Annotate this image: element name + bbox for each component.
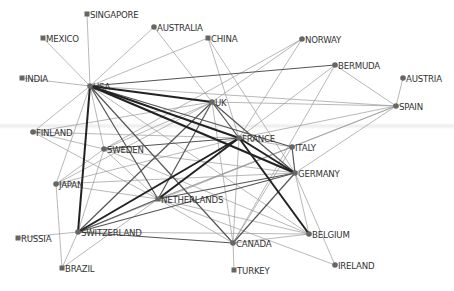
node-uk[interactable]: UK (209, 98, 227, 108)
node-netherlands[interactable]: NETHERLANDS (156, 195, 224, 205)
square-node-icon (85, 12, 90, 17)
square-node-icon (156, 197, 161, 202)
edge-france-switzerland (78, 138, 239, 232)
edge-italy-canada (233, 147, 292, 243)
edge-usa-australia (90, 27, 154, 86)
node-label: CHINA (211, 34, 238, 44)
circle-node-icon (236, 135, 242, 141)
edge-germany-ireland (295, 173, 335, 265)
node-japan[interactable]: JAPAN (53, 180, 83, 190)
node-label: IRELAND (338, 261, 375, 271)
node-finland[interactable]: FINLAND (30, 128, 73, 138)
square-node-icon (206, 36, 211, 41)
node-italy[interactable]: ITALY (289, 143, 317, 153)
node-label: SINGAPORE (90, 10, 139, 20)
edge-norway-france (239, 39, 302, 138)
circle-node-icon (299, 36, 305, 42)
node-mexico[interactable]: MEXICO (41, 34, 80, 44)
circle-node-icon (292, 170, 298, 176)
node-australia[interactable]: AUSTRALIA (151, 23, 203, 33)
node-norway[interactable]: NORWAY (299, 35, 342, 45)
circle-node-icon (230, 240, 236, 246)
edge-usa-france (90, 86, 239, 138)
node-label: AUSTRIA (406, 74, 442, 84)
edge-usa-mexico (43, 38, 90, 86)
node-canada[interactable]: CANADA (230, 239, 271, 249)
edge-usa-finland (33, 86, 90, 132)
node-label: MEXICO (46, 34, 79, 44)
node-label: BERMUDA (338, 61, 380, 71)
node-label: USA (93, 82, 111, 92)
edge-netherlands-canada (158, 199, 233, 243)
node-label: FINLAND (36, 128, 73, 138)
square-node-icon (20, 76, 25, 81)
square-node-icon (232, 268, 237, 273)
node-label: JAPAN (58, 180, 83, 190)
edge-netherlands-sweden (104, 149, 158, 199)
edge-usa-switzerland (78, 86, 90, 232)
node-brazil[interactable]: BRAZIL (60, 264, 95, 274)
node-label: BRAZIL (65, 264, 95, 274)
node-label: NORWAY (305, 35, 342, 45)
node-label: SWITZERLAND (81, 228, 142, 238)
node-label: FRANCE (242, 134, 275, 144)
square-node-icon (16, 236, 21, 241)
circle-node-icon (30, 129, 36, 135)
node-china[interactable]: CHINA (206, 34, 238, 44)
edge-usa-china (90, 38, 208, 86)
square-node-icon (60, 266, 65, 271)
circle-node-icon (393, 103, 399, 109)
edge-bermuda-france (239, 65, 335, 138)
node-india[interactable]: INDIA (20, 74, 49, 84)
edge-france-netherlands (158, 138, 239, 199)
circle-node-icon (332, 62, 338, 68)
node-label: INDIA (25, 74, 48, 84)
node-label: ITALY (295, 143, 317, 153)
node-austria[interactable]: AUSTRIA (400, 74, 442, 84)
edge-usa-sweden (90, 86, 104, 149)
circle-node-icon (306, 231, 312, 237)
node-russia[interactable]: RUSSIA (16, 234, 52, 244)
node-label: CANADA (236, 239, 272, 249)
node-switzerland[interactable]: SWITZERLAND (75, 228, 142, 238)
circle-node-icon (53, 181, 59, 187)
edge-norway-sweden (104, 39, 302, 149)
node-bermuda[interactable]: BERMUDA (332, 61, 380, 71)
circle-node-icon (151, 24, 157, 30)
circle-node-icon (209, 99, 215, 105)
edge-finland-netherlands (33, 132, 158, 199)
node-label: SPAIN (399, 102, 423, 112)
node-sweden[interactable]: SWEDEN (101, 145, 143, 155)
network-graph: SINGAPOREMEXICOINDIAAUSTRALIACHINANORWAY… (0, 0, 454, 291)
node-germany[interactable]: GERMANY (292, 169, 340, 179)
node-label: NETHERLANDS (161, 195, 223, 205)
node-label: GERMANY (298, 169, 341, 179)
node-label: UK (215, 98, 227, 108)
circle-node-icon (75, 229, 81, 235)
edge-bermuda-spain (335, 65, 396, 106)
edge-uk-canada (212, 102, 233, 243)
node-label: SWEDEN (107, 145, 144, 155)
node-belgium[interactable]: BELGIUM (306, 230, 349, 240)
node-turkey[interactable]: TURKEY (232, 266, 271, 276)
node-france[interactable]: FRANCE (236, 134, 275, 144)
node-label: AUSTRALIA (157, 23, 203, 33)
edge-usa-bermuda (90, 65, 335, 86)
node-label: TURKEY (236, 266, 271, 276)
node-ireland[interactable]: IRELAND (332, 261, 375, 271)
circle-node-icon (101, 146, 107, 152)
edge-canada-turkey (233, 243, 234, 270)
circle-node-icon (400, 75, 406, 81)
node-singapore[interactable]: SINGAPORE (85, 10, 139, 20)
node-label: RUSSIA (21, 234, 52, 244)
edge-usa-canada (90, 86, 233, 243)
square-node-icon (41, 36, 46, 41)
circle-node-icon (87, 83, 93, 89)
node-layer: SINGAPOREMEXICOINDIAAUSTRALIACHINANORWAY… (16, 10, 443, 276)
circle-node-icon (332, 262, 338, 268)
edge-uk-norway (212, 39, 302, 102)
circle-node-icon (289, 144, 295, 150)
node-spain[interactable]: SPAIN (393, 102, 423, 112)
edge-usa-singapore (87, 14, 90, 86)
edge-japan-brazil (56, 184, 62, 268)
